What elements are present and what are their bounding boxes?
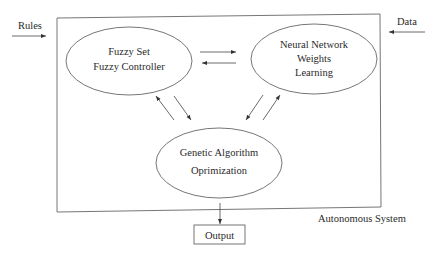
fuzzy-to-genetic-arrow-icon: [174, 96, 191, 120]
neural-node-label-1: Neural Network: [280, 39, 349, 50]
output-label: Output: [205, 230, 234, 241]
autonomous-system-label: Autonomous System: [318, 213, 406, 224]
output-box: Output: [194, 225, 245, 244]
rules-label: Rules: [18, 20, 42, 31]
genetic-node: Genetic Algorithm Oprimization: [156, 128, 282, 198]
neural-node-label-3: Learning: [295, 67, 334, 78]
genetic-to-neural-arrow-icon: [263, 95, 280, 120]
genetic-node-label-2: Oprimization: [191, 165, 248, 176]
neural-to-genetic-arrow-icon: [246, 95, 263, 120]
neural-node-label-2: Weights: [297, 53, 331, 64]
data-label: Data: [397, 16, 417, 27]
data-input: Data: [389, 16, 425, 32]
fuzzy-node-label-2: Fuzzy Controller: [93, 61, 165, 72]
rules-input: Rules: [12, 20, 46, 36]
diagram-canvas: Rules Data Fuzzy Set Fuzzy Controller Ne…: [0, 0, 439, 254]
genetic-to-fuzzy-arrow-icon: [156, 96, 174, 120]
genetic-node-label-1: Genetic Algorithm: [180, 147, 258, 158]
neural-node: Neural Network Weights Learning: [251, 24, 377, 94]
fuzzy-node: Fuzzy Set Fuzzy Controller: [66, 27, 192, 95]
fuzzy-node-label-1: Fuzzy Set: [108, 46, 150, 57]
